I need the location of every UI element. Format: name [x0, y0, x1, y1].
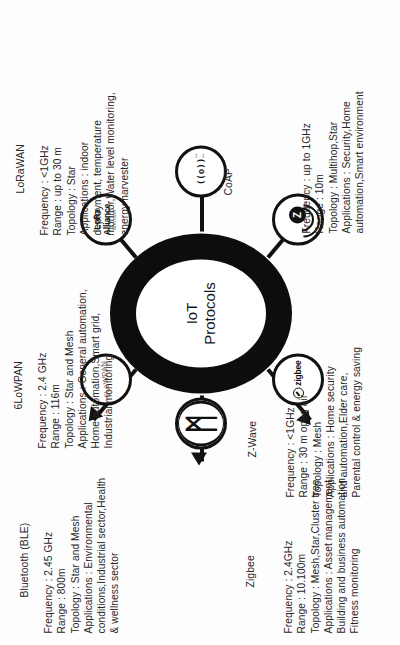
coap-line-3: Topology : Multihop,Star	[327, 91, 340, 233]
lorawan-line-5: deployment, temperature	[91, 92, 104, 235]
zigbee-line-2: Range : 10.100m	[295, 475, 308, 633]
zigbee-line-1: Frequency : 2.4GHz	[282, 475, 295, 633]
zwave-line-4: Applications : Home security	[324, 347, 337, 497]
label-lorawan-body: Frequency : <1GHz Range : up to 30 m Top…	[38, 92, 131, 235]
zigbee-line-3: Topology : Mesh,Star,Cluster tree	[309, 475, 322, 633]
lorawan-line-3: Topology : Star	[65, 92, 78, 235]
label-bluetooth-title: Bluetooth (BLE)	[18, 522, 32, 597]
zigbee-line-5: Building and business automation,	[335, 475, 348, 633]
sixlowpan-line-5: Home automation,Smart grid,	[89, 289, 102, 448]
label-6lowpan-title: 6LoWPAN	[12, 361, 26, 409]
coap-line-1: Frequency : up to 1GHz	[300, 91, 313, 233]
bluetooth-line-5: conditions,Industrial sector,Health	[95, 477, 108, 633]
bluetooth-line-1: Frequency : 2.45 GHz	[42, 477, 55, 633]
node-coap[interactable]: ((o)) ••••	[175, 145, 227, 197]
lorawan-line-6: monitor,Water level monitoring,	[104, 92, 117, 235]
label-coap-title: CoAP	[222, 167, 236, 195]
coap-line-5: automation,Smart environment	[353, 91, 366, 233]
sixlowpan-line-1: Frequency : 2.4 GHz	[36, 289, 49, 448]
zwave-line-5: and automation,Elder care,	[337, 347, 350, 497]
bluetooth-icon: ᛗ	[178, 400, 224, 446]
bluetooth-line-6: & wellness sector	[108, 477, 121, 633]
bluetooth-line-2: Range : 800m	[55, 477, 68, 633]
center-title-line2: Protocols	[201, 282, 219, 345]
bluetooth-line-4: Applications : Environmental	[82, 477, 95, 633]
zwave-line-6: Parental control & energy saving	[350, 347, 363, 497]
label-6lowpan-body: Frequency : 2.4 GHz Range : 116m Topolog…	[36, 289, 116, 448]
zwave-line-3: Topology : Mesh	[311, 347, 324, 497]
label-zwave-body: Frequency : <1GHz Range : 30 m open air …	[284, 347, 364, 497]
zwave-line-2: Range : 30 m open air	[297, 347, 310, 497]
zigbee-line-6: Fitness monitoring	[348, 475, 361, 633]
iot-protocols-diagram: IoT Protocols ᛗ 6LoWPAN LoRa Alliance Me…	[0, 0, 400, 645]
rf-signal-icon: ((o)) ••••	[178, 148, 224, 194]
sixlowpan-line-2: Range : 116m	[49, 289, 62, 448]
label-zwave-title: Z-Wave	[246, 420, 260, 457]
sixlowpan-line-3: Topology : Star and Mesh	[63, 289, 76, 448]
lorawan-line-2: Range : up to 30 m	[51, 92, 64, 235]
central-hub-label: IoT Protocols	[110, 233, 292, 393]
label-zigbee-title: Zigbee	[244, 555, 258, 587]
node-bluetooth[interactable]: ᛗ	[175, 397, 227, 449]
center-title-line1: IoT	[183, 282, 201, 345]
sixlowpan-line-4: Applications : General automation,	[76, 289, 89, 448]
label-bluetooth-body: Frequency : 2.45 GHz Range : 800m Topolo…	[42, 477, 122, 633]
label-zigbee-body: Frequency : 2.4GHz Range : 10.100m Topol…	[282, 475, 362, 633]
sixlowpan-line-6: Industrial monitoring	[102, 289, 115, 448]
coap-line-4: Applications : Security,Home	[340, 91, 353, 233]
bluetooth-line-3: Topology : Star and Mesh	[69, 477, 82, 633]
zwave-line-1: Frequency : <1GHz	[284, 347, 297, 497]
label-lorawan-title: LoRaWAN	[14, 144, 28, 193]
coap-line-2: Range : 10m	[313, 91, 326, 233]
lorawan-line-4: Applications : indoor	[78, 92, 91, 235]
lorawan-line-1: Frequency : <1GHz	[38, 92, 51, 235]
zigbee-line-4: Applications : Asset management,	[322, 475, 335, 633]
lorawan-line-7: energy harvester	[118, 92, 131, 235]
label-coap-body: Frequency : up to 1GHz Range : 10m Topol…	[300, 91, 366, 233]
